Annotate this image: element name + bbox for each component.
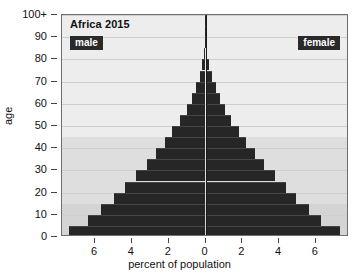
chart-title: Africa 2015 [70, 18, 130, 30]
x-tick-label: 2 [165, 245, 171, 257]
x-tick-mark [315, 238, 316, 243]
x-tick-mark [94, 238, 95, 243]
y-tick-label: 60 [35, 97, 47, 109]
y-tick-mark [51, 214, 57, 215]
x-tick-label: 2 [238, 245, 244, 257]
y-tick-mark [51, 169, 57, 170]
x-tick-mark [278, 238, 279, 243]
y-tick-mark [51, 125, 57, 126]
bar-female-0-4 [206, 226, 340, 236]
x-axis-label: percent of population [0, 258, 359, 270]
bar-female-30-34 [206, 159, 265, 170]
bar-male-60-64 [192, 93, 206, 104]
y-tick-mark [51, 81, 57, 82]
bar-female-40-44 [206, 137, 246, 148]
x-tick-label: 4 [128, 245, 134, 257]
y-tick-label: 50 [35, 119, 47, 131]
bar-male-15-19 [114, 193, 206, 204]
bar-female-35-39 [206, 148, 256, 159]
bar-male-10-14 [101, 204, 206, 215]
bar-female-60-64 [206, 93, 221, 104]
bar-female-50-54 [206, 115, 232, 126]
x-tick-mark [205, 238, 206, 243]
bar-female-20-24 [206, 182, 287, 193]
y-tick-label: 80 [35, 52, 47, 64]
bar-male-35-39 [156, 148, 206, 159]
x-axis-ticks: 6420246 [0, 238, 359, 258]
legend-male-badge: male [70, 36, 103, 50]
x-tick-label: 6 [312, 245, 318, 257]
bar-male-25-29 [136, 170, 206, 181]
y-tick-mark [51, 147, 57, 148]
y-tick-label: 90 [35, 30, 47, 42]
bar-male-65-69 [196, 82, 205, 93]
bar-male-45-49 [172, 126, 205, 137]
x-tick-label: 6 [91, 245, 97, 257]
x-tick-label: 4 [275, 245, 281, 257]
bar-male-5-9 [88, 215, 206, 226]
y-tick-mark [51, 192, 57, 193]
y-tick-label: 10 [35, 208, 47, 220]
y-axis-ticks: 0102030405060708090100+ [0, 0, 57, 277]
y-tick-mark [51, 36, 57, 37]
y-tick-label: 40 [35, 141, 47, 153]
y-tick-mark [51, 236, 57, 237]
bar-female-15-19 [206, 193, 296, 204]
bar-female-25-29 [206, 170, 276, 181]
population-pyramid-chart: Africa 2015 male female 0102030405060708… [0, 0, 359, 277]
bar-male-20-24 [125, 182, 206, 193]
plot-area: Africa 2015 male female [61, 14, 348, 236]
bar-female-10-14 [206, 204, 309, 215]
legend-female-badge: female [298, 36, 340, 50]
y-axis-label: age [2, 107, 14, 125]
y-tick-mark [51, 14, 57, 15]
bar-male-40-44 [165, 137, 205, 148]
bar-female-45-49 [206, 126, 239, 137]
y-tick-label: 100+ [22, 8, 47, 20]
x-tick-mark [168, 238, 169, 243]
bar-male-0-4 [69, 226, 205, 236]
bar-male-50-54 [180, 115, 206, 126]
y-tick-label: 30 [35, 163, 47, 175]
bar-female-5-9 [206, 215, 322, 226]
x-tick-mark [131, 238, 132, 243]
x-tick-mark [241, 238, 242, 243]
bar-male-55-59 [187, 104, 205, 115]
bar-male-30-34 [147, 159, 206, 170]
bar-female-65-69 [206, 82, 216, 93]
y-tick-label: 20 [35, 186, 47, 198]
y-tick-label: 70 [35, 75, 47, 87]
y-tick-mark [51, 58, 57, 59]
bar-female-55-59 [206, 104, 225, 115]
x-tick-label: 0 [201, 245, 207, 257]
center-axis-line [206, 15, 207, 235]
y-tick-mark [51, 103, 57, 104]
